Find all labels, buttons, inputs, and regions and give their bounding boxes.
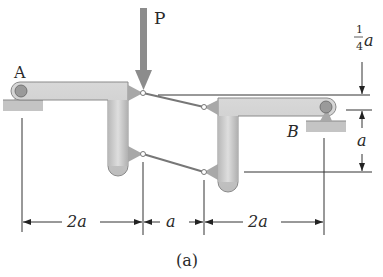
load-label: P (154, 8, 165, 28)
dim-label-1: 2a (66, 212, 87, 231)
figure-caption: (a) (176, 251, 198, 270)
pin-b (320, 101, 332, 113)
linkage-diagram: P A B 1 4 a a 2a a 2a (a) (0, 0, 383, 277)
lower-link (143, 154, 204, 172)
pin-a (15, 85, 27, 97)
support-b-label: B (286, 122, 299, 141)
right-dimensions (158, 62, 372, 172)
dim-label-3: 2a (247, 212, 268, 231)
load-arrow-p (135, 8, 152, 90)
ground-b (306, 121, 346, 132)
fraction-var: a (364, 31, 374, 50)
support-a-label: A (13, 63, 26, 82)
right-height-label: a (357, 131, 367, 150)
left-bellcrank (11, 82, 143, 176)
fraction-num: 1 (356, 23, 363, 36)
dim-label-2: a (166, 212, 176, 231)
ground-a (3, 100, 43, 111)
right-bellcrank (204, 98, 336, 192)
fraction-den: 4 (356, 40, 363, 53)
